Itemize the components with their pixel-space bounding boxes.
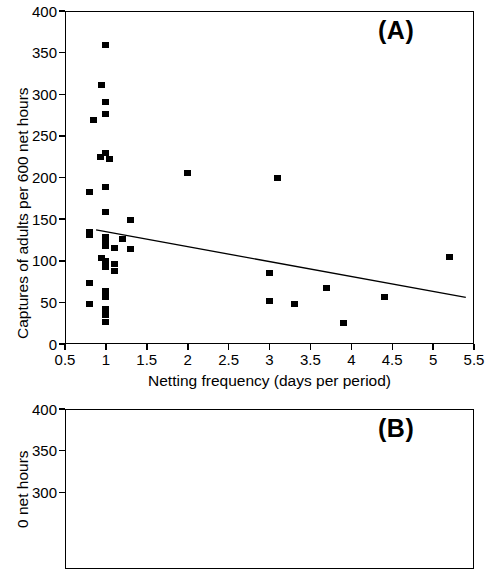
x-tick-label-a: 5.5 bbox=[451, 352, 497, 367]
data-point-marker bbox=[274, 175, 281, 181]
data-point-marker bbox=[266, 270, 273, 276]
x-tick-mark-a bbox=[432, 344, 434, 350]
data-point-marker bbox=[102, 42, 109, 48]
data-point-marker bbox=[97, 154, 104, 160]
x-axis-title-a: Netting frequency (days per period) bbox=[65, 372, 474, 390]
data-point-marker bbox=[102, 264, 109, 270]
y-tick-mark-b bbox=[59, 492, 65, 494]
data-point-marker bbox=[111, 245, 118, 251]
y-tick-label-b: 350 bbox=[0, 443, 57, 458]
y-tick-label-a: 350 bbox=[0, 45, 57, 60]
data-point-marker bbox=[102, 111, 109, 117]
x-tick-mark-a bbox=[473, 344, 475, 350]
panel-label-a: (A) bbox=[378, 16, 414, 45]
data-point-marker bbox=[111, 268, 118, 274]
x-tick-label-a: 4.5 bbox=[369, 352, 415, 367]
x-tick-label-a: 4 bbox=[328, 352, 374, 367]
x-tick-mark-a bbox=[105, 344, 107, 350]
data-point-marker bbox=[86, 232, 93, 238]
data-point-marker bbox=[111, 261, 118, 267]
data-point-marker bbox=[102, 243, 109, 249]
y-tick-label-b: 300 bbox=[0, 485, 57, 500]
x-tick-mark-a bbox=[228, 344, 230, 350]
x-tick-mark-a bbox=[269, 344, 271, 350]
trendline-svg bbox=[65, 11, 474, 344]
x-tick-label-a: 0.5 bbox=[42, 352, 88, 367]
data-point-marker bbox=[127, 217, 134, 223]
x-tick-label-a: 3.5 bbox=[287, 352, 333, 367]
x-tick-label-a: 2 bbox=[165, 352, 211, 367]
y-tick-label-a: 250 bbox=[0, 128, 57, 143]
x-tick-label-a: 1.5 bbox=[124, 352, 170, 367]
y-tick-label-a: 400 bbox=[0, 4, 57, 19]
x-tick-label-a: 1 bbox=[83, 352, 129, 367]
x-tick-label-a: 5 bbox=[410, 352, 456, 367]
data-point-marker bbox=[102, 184, 109, 190]
y-tick-label-a: 0 bbox=[0, 337, 57, 352]
x-tick-mark-a bbox=[64, 344, 66, 350]
x-tick-mark-a bbox=[310, 344, 312, 350]
data-point-marker bbox=[340, 320, 347, 326]
panel-label-b: (B) bbox=[378, 414, 414, 443]
data-point-marker bbox=[381, 294, 388, 300]
data-point-marker bbox=[86, 301, 93, 307]
x-tick-label-a: 2.5 bbox=[206, 352, 252, 367]
data-point-marker bbox=[102, 312, 109, 318]
data-point-marker bbox=[102, 294, 109, 300]
data-point-marker bbox=[102, 288, 109, 294]
data-point-marker bbox=[127, 246, 134, 252]
data-point-marker bbox=[446, 254, 453, 260]
regression-line bbox=[96, 230, 466, 297]
data-point-marker bbox=[102, 99, 109, 105]
y-tick-mark-b bbox=[59, 450, 65, 452]
data-point-marker bbox=[323, 285, 330, 291]
data-point-marker bbox=[184, 170, 191, 176]
x-tick-mark-a bbox=[146, 344, 148, 350]
data-point-marker bbox=[291, 301, 298, 307]
data-point-marker bbox=[266, 298, 273, 304]
x-tick-mark-a bbox=[392, 344, 394, 350]
data-layer-a bbox=[65, 11, 474, 344]
data-point-marker bbox=[86, 280, 93, 286]
y-tick-label-a: 150 bbox=[0, 212, 57, 227]
y-tick-label-a: 200 bbox=[0, 170, 57, 185]
x-tick-mark-a bbox=[351, 344, 353, 350]
y-tick-mark-b bbox=[59, 408, 65, 410]
data-point-marker bbox=[106, 156, 113, 162]
y-tick-label-a: 300 bbox=[0, 87, 57, 102]
data-point-marker bbox=[102, 319, 109, 325]
x-tick-mark-a bbox=[187, 344, 189, 350]
data-point-marker bbox=[102, 209, 109, 215]
panel-a: Captures of adults per 600 net hours 050… bbox=[0, 0, 497, 380]
data-point-marker bbox=[119, 236, 126, 242]
data-point-marker bbox=[86, 189, 93, 195]
data-point-marker bbox=[98, 82, 105, 88]
x-tick-label-a: 3 bbox=[247, 352, 293, 367]
panel-b: 0 net hours 400350300 (B) bbox=[0, 392, 497, 532]
y-tick-label-b: 400 bbox=[0, 402, 57, 417]
data-point-marker bbox=[90, 117, 97, 123]
y-tick-label-a: 100 bbox=[0, 253, 57, 268]
y-tick-label-a: 50 bbox=[0, 295, 57, 310]
